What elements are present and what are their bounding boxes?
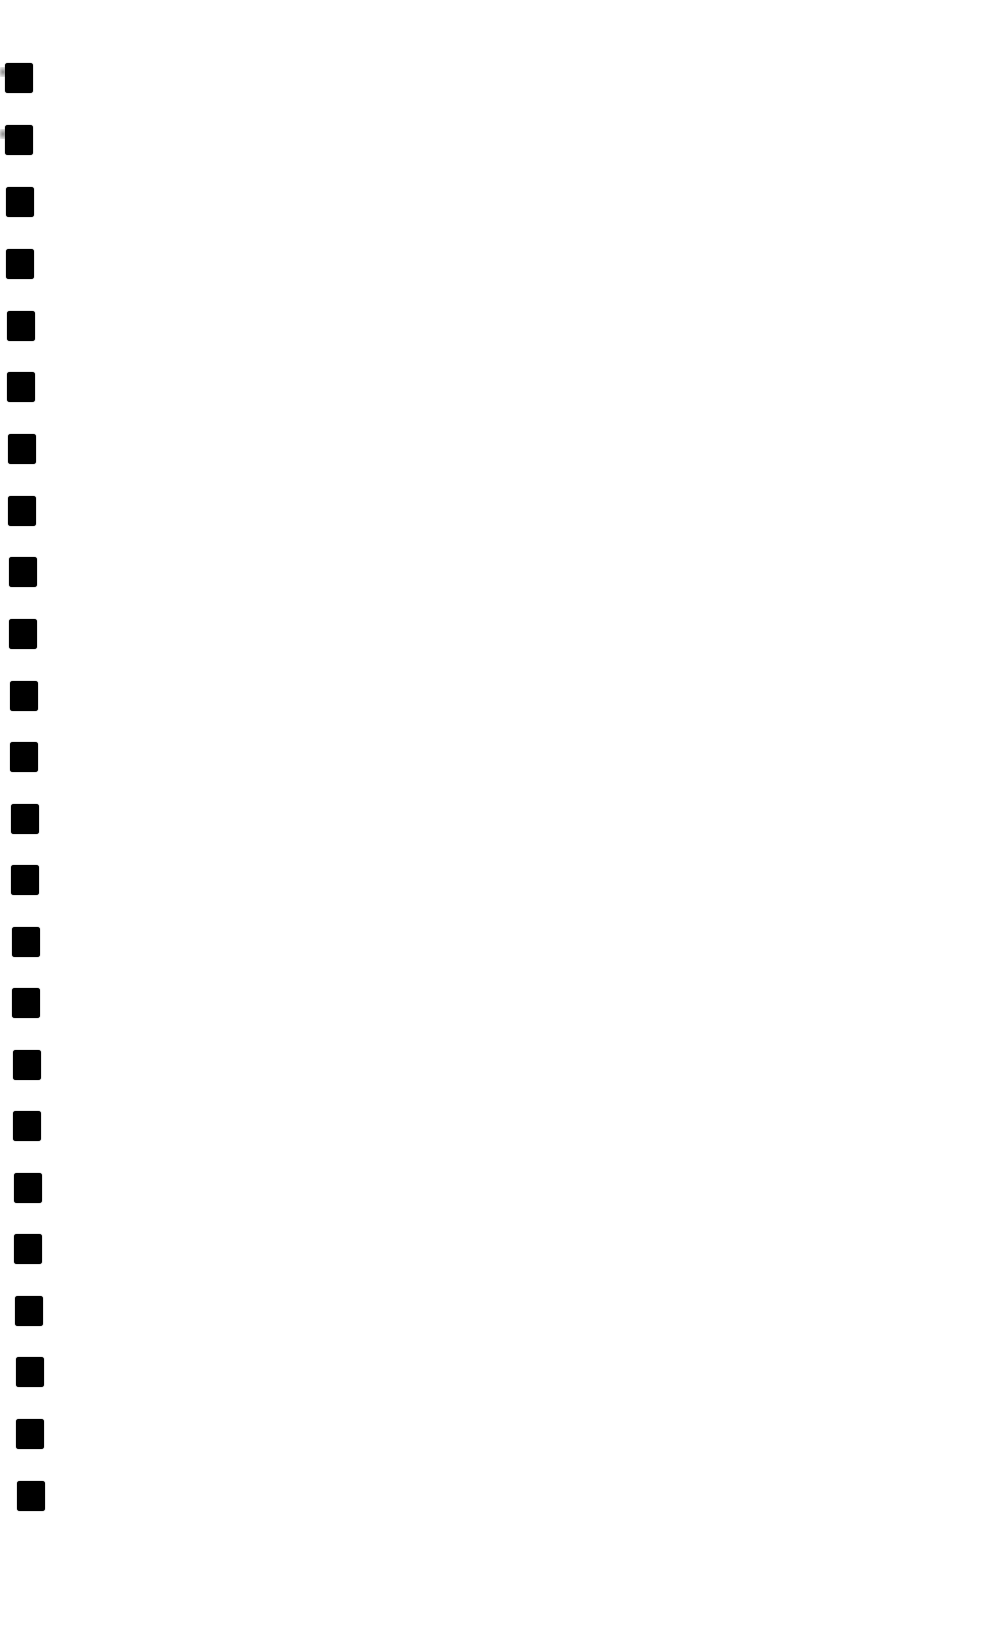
binding-hole: [12, 927, 40, 957]
scanned-page: [0, 0, 1001, 1626]
binding-hole: [7, 311, 35, 341]
binding-hole: [16, 1357, 44, 1387]
binding-hole: [9, 557, 37, 587]
binding-hole: [5, 125, 33, 155]
binding-hole: [12, 988, 40, 1018]
binding-hole: [8, 496, 36, 526]
binding-hole: [10, 742, 38, 772]
binding-hole: [6, 187, 34, 217]
binding-hole: [5, 63, 33, 93]
binding-hole: [9, 619, 37, 649]
binding-hole: [6, 249, 34, 279]
binding-hole: [14, 1234, 42, 1264]
binding-hole: [17, 1481, 45, 1511]
binding-hole: [13, 1050, 41, 1080]
binding-hole: [15, 1296, 43, 1326]
binding-hole: [10, 681, 38, 711]
binding-hole: [8, 434, 36, 464]
binding-holes-column: [0, 0, 60, 1626]
binding-hole: [16, 1419, 44, 1449]
binding-hole: [11, 865, 39, 895]
binding-hole: [7, 372, 35, 402]
binding-hole: [13, 1111, 41, 1141]
binding-hole: [14, 1173, 42, 1203]
binding-hole: [11, 804, 39, 834]
